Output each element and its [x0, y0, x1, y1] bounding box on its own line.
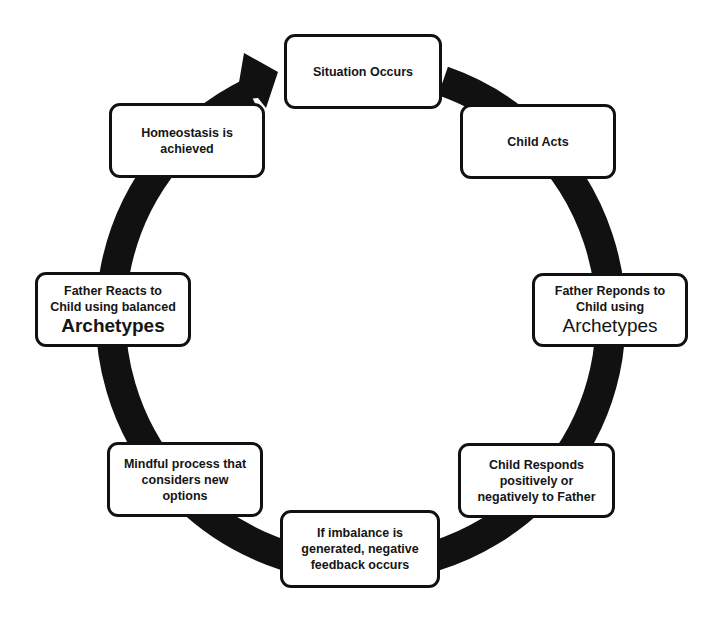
step-label-line: Mindful process that: [124, 456, 246, 472]
step-label-line: feedback occurs: [311, 557, 410, 573]
step-label-line: Father Reacts to: [64, 283, 162, 299]
step-label-line: achieved: [160, 141, 214, 157]
step-emphasis: Archetypes: [61, 315, 165, 337]
step-label: Situation Occurs: [313, 64, 413, 80]
step-father-responds: Father Reponds to Child using Archetypes: [532, 273, 688, 347]
step-label-line: If imbalance is: [317, 525, 403, 541]
step-label-line: Child using: [576, 299, 644, 315]
step-label: Child Acts: [507, 134, 568, 150]
step-father-reacts: Father Reacts to Child using balanced Ar…: [35, 272, 191, 347]
step-situation-occurs: Situation Occurs: [284, 34, 442, 109]
step-homeostasis: Homeostasis is achieved: [109, 103, 265, 178]
step-emphasis: Archetypes: [562, 315, 657, 337]
step-label-line: positively or: [500, 473, 574, 489]
step-label-line: considers new: [142, 472, 229, 488]
step-label-line: Child Responds: [489, 457, 584, 473]
step-label-line: generated, negative: [301, 541, 418, 557]
step-child-responds: Child Responds positively or negatively …: [458, 443, 615, 518]
step-label-line: Homeostasis is: [141, 125, 233, 141]
step-label-line: Father Reponds to: [555, 283, 665, 299]
step-mindful-process: Mindful process that considers new optio…: [107, 442, 263, 517]
step-label-line: options: [162, 488, 207, 504]
step-label-line: negatively to Father: [477, 489, 595, 505]
step-imbalance-feedback: If imbalance is generated, negative feed…: [280, 510, 440, 588]
step-child-acts: Child Acts: [460, 104, 616, 179]
step-label-line: Child using balanced: [50, 299, 176, 315]
